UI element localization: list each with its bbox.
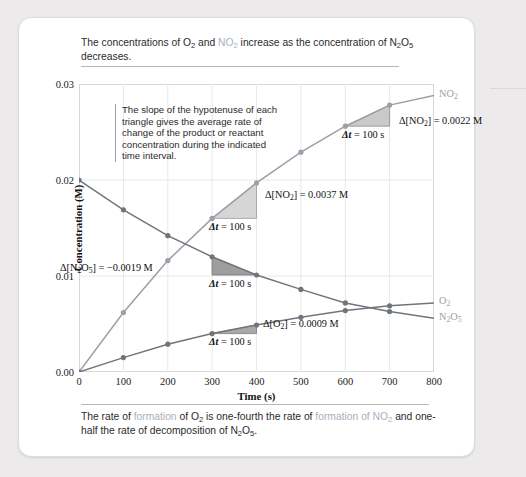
- ann-n2o5-sub2: 5: [89, 266, 93, 275]
- dt-value-n2o5: = 100 s: [218, 278, 251, 289]
- annotation-dt-no2-mid: Δt = 100 s: [209, 221, 251, 232]
- x-tick-200: 200: [160, 376, 176, 387]
- series-label-no2: NO2: [439, 88, 458, 99]
- ann-no2-mid-lead: Δ[NO: [265, 189, 290, 200]
- series-n2o5-mid: O: [450, 311, 457, 322]
- cb-sub3: 2: [238, 429, 242, 438]
- x-tick-400: 400: [249, 376, 265, 387]
- ann-no2-top-lead: Δ[NO: [399, 115, 424, 126]
- caption-bottom: The rate of formation of O2 is one-fourt…: [81, 404, 441, 438]
- cb-seg7: .: [254, 425, 257, 436]
- cb-sub2: 2: [388, 415, 392, 424]
- caption-top-no2: NO: [218, 37, 233, 48]
- series-n2o5-sub2: 5: [458, 315, 462, 324]
- ann-no2-top-sub: 2: [424, 119, 428, 128]
- caption-top-seg2: and: [195, 37, 218, 48]
- caption-bottom-rule: [81, 404, 429, 405]
- cb-sub1: 2: [199, 415, 203, 424]
- series-no2-text: NO: [439, 88, 454, 99]
- cb-seg1: The rate of: [81, 411, 134, 422]
- caption-top-o-sub: 5: [409, 41, 413, 50]
- annotation-no2-top-delta: Δ[NO2] = 0.0022 M: [399, 115, 482, 126]
- ann-n2o5-mid: O: [81, 262, 88, 273]
- ann-o2-lead: Δ[O: [263, 318, 281, 329]
- ann-o2-val: ] = 0.0009 M: [284, 318, 338, 329]
- series-label-n2o5: N2O5: [439, 311, 461, 322]
- page-edge-rule: [490, 88, 526, 89]
- annotation-dt-no2-top: Δt = 100 s: [342, 129, 384, 140]
- caption-top-seg4: O: [401, 37, 409, 48]
- y-axis-label: Concentration (M): [72, 185, 84, 272]
- caption-top-seg3: increase as the concentration of N: [238, 37, 397, 48]
- caption-top: The concentrations of O2 and NO2 increas…: [81, 36, 429, 67]
- x-tick-0: 0: [76, 376, 81, 387]
- y-tick-000: 0.00: [56, 367, 74, 378]
- caption-top-seg5: decreases.: [81, 51, 131, 62]
- cb-sub4: 5: [250, 429, 254, 438]
- caption-top-o2: O: [183, 37, 191, 48]
- caption-top-seg1: The concentrations of: [81, 37, 183, 48]
- ann-n2o5-lead: Δ[N: [60, 262, 78, 273]
- caption-top-n-sub: 2: [397, 41, 401, 50]
- dt-symbol-no2-mid: Δt: [209, 221, 218, 232]
- x-tick-700: 700: [382, 376, 398, 387]
- caption-top-rule: [81, 66, 399, 67]
- caption-bottom-text: The rate of formation of O2 is one-fourt…: [81, 410, 441, 438]
- ann-n2o5-val: ] = −0.0019 M: [93, 262, 153, 273]
- series-no2-sub: 2: [454, 92, 458, 101]
- y-tick-003: 0.03: [56, 79, 74, 90]
- dt-value-o2: = 100 s: [218, 336, 251, 347]
- series-n2o5-sub1: 2: [446, 315, 450, 324]
- y-tick-002: 0.02: [56, 175, 74, 186]
- figure-card: The concentrations of O2 and NO2 increas…: [18, 17, 475, 457]
- annotation-n2o5-delta: Δ[N2O5] = −0.0019 M: [60, 262, 153, 273]
- cb-formation-2: formation of NO: [315, 411, 388, 422]
- chart-plot-area: 0.03 0.02 0.01 0.00 0 100 200 300 400 50…: [79, 84, 434, 372]
- cb-seg5: of N: [216, 425, 238, 436]
- series-label-o2: O2: [439, 295, 450, 306]
- annotation-dt-o2: Δt = 100 s: [209, 336, 251, 347]
- cb-decomposition: decomposition: [150, 425, 216, 436]
- dt-value-no2-mid: = 100 s: [218, 221, 251, 232]
- x-tick-300: 300: [204, 376, 220, 387]
- x-tick-500: 500: [293, 376, 309, 387]
- series-o2-sub: 2: [446, 299, 450, 308]
- dt-symbol-o2: Δt: [209, 336, 218, 347]
- cb-formation-1: formation: [134, 411, 177, 422]
- x-axis-label: Time (s): [238, 390, 276, 402]
- caption-top-text: The concentrations of O2 and NO2 increas…: [81, 36, 429, 63]
- annotation-o2-delta: Δ[O2] = 0.0009 M: [263, 318, 339, 329]
- x-tick-800: 800: [426, 376, 442, 387]
- ann-no2-mid-val: ] = 0.0037 M: [294, 189, 348, 200]
- dt-value-no2-top: = 100 s: [351, 129, 384, 140]
- explanatory-note: The slope of the hypotenuse of each tria…: [115, 104, 282, 162]
- cb-seg6: O: [242, 425, 250, 436]
- x-tick-600: 600: [337, 376, 353, 387]
- caption-top-no2-sub: 2: [234, 41, 238, 50]
- x-tick-100: 100: [116, 376, 132, 387]
- ann-o2-sub: 2: [281, 322, 285, 331]
- dt-symbol-no2-top: Δt: [342, 129, 351, 140]
- annotation-no2-mid-delta: Δ[NO2] = 0.0037 M: [265, 189, 348, 200]
- annotation-dt-n2o5: Δt = 100 s: [209, 278, 251, 289]
- dt-symbol-n2o5: Δt: [209, 278, 218, 289]
- ann-no2-mid-sub: 2: [290, 193, 294, 202]
- ann-n2o5-sub1: 2: [78, 266, 82, 275]
- ann-no2-top-val: ] = 0.0022 M: [428, 115, 482, 126]
- caption-top-o2-sub: 2: [191, 41, 195, 50]
- cb-seg3: is one-fourth the rate of: [203, 411, 315, 422]
- cb-seg2: of O: [177, 411, 199, 422]
